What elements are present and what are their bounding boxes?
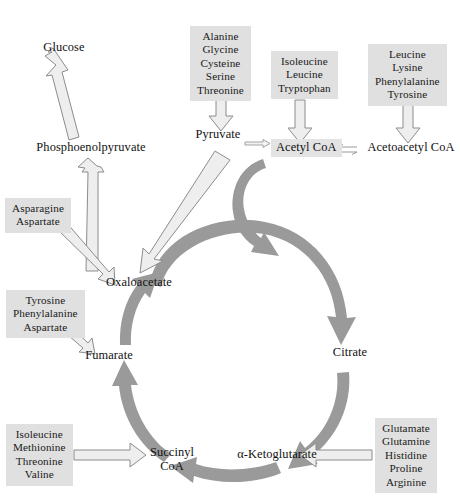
citric-acid-cycle-arcs	[112, 159, 356, 483]
aa-item: Cysteine	[197, 57, 244, 70]
cycle-arc-acetyl-coa-entry	[232, 159, 279, 256]
aa-item: Threonine	[13, 455, 66, 468]
node-acetyl-coa: Acetyl CoA	[271, 139, 342, 157]
node-succinyl-coa: Succinyl CoA	[146, 446, 198, 473]
aa-group-to-alpha-ketoglutarate: Glutamate Glutamine Histidine Proline Ar…	[375, 418, 437, 493]
node-fumarate: Fumarate	[78, 349, 140, 363]
aa-group-to-acetyl-coa: Isoleucine Leucine Tryptophan	[271, 51, 338, 99]
aa-item: Threonine	[197, 84, 244, 97]
pathway-diagram: Glucose Phosphoenolpyruvate Pyruvate Ace…	[0, 0, 460, 500]
block-arrow-oxaloacetate-to-pep	[78, 158, 104, 271]
aa-item: Arginine	[382, 476, 430, 489]
aa-item: Methionine	[13, 441, 66, 454]
block-arrow-pep-to-glucose	[45, 48, 79, 140]
thin-arrow-pyruvate-to-acetyl-coa	[245, 140, 270, 148]
aa-item: Tryptophan	[278, 82, 331, 95]
aa-group-to-succinyl-coa: Isoleucine Methionine Threonine Valine	[6, 424, 73, 486]
aa-item: Leucine	[375, 48, 440, 61]
aa-group-to-acetoacetyl-coa: Leucine Lysine Phenylalanine Tyrosine	[368, 44, 447, 106]
block-arrow-pyruvate-to-oxaloacetate	[140, 151, 230, 273]
node-oxaloacetate: Oxaloacetate	[93, 276, 185, 290]
aa-item: Glutamine	[382, 435, 430, 448]
aa-item: Glutamate	[382, 422, 430, 435]
node-glucose: Glucose	[32, 41, 96, 55]
block-arrow-aa-to-acetoacetyl-coa	[396, 100, 420, 143]
aa-item: Aspartate	[13, 321, 78, 334]
node-succinyl-coa-line1: Succinyl	[150, 445, 194, 459]
aa-group-to-fumarate: Tyrosine Phenylalanine Aspartate	[6, 290, 85, 338]
aa-item: Lysine	[375, 61, 440, 74]
aa-item: Valine	[13, 468, 66, 481]
aa-item: Glycine	[197, 43, 244, 56]
aa-group-to-pyruvate: Alanine Glycine Cysteine Serine Threonin…	[190, 26, 251, 101]
aa-item: Isoleucine	[13, 428, 66, 441]
aa-item: Aspartate	[12, 215, 64, 228]
block-arrow-aa-to-succinyl-coa	[74, 443, 146, 467]
node-alpha-ketoglutarate: α-Ketoglutarate	[229, 448, 325, 462]
node-succinyl-coa-line2: CoA	[160, 459, 184, 473]
aa-item: Leucine	[278, 68, 331, 81]
aa-item: Phenylalanine	[13, 307, 78, 320]
aa-item: Tyrosine	[13, 294, 78, 307]
aa-item: Asparagine	[12, 202, 64, 215]
aa-item: Histidine	[382, 449, 430, 462]
aa-item: Phenylalanine	[375, 75, 440, 88]
aa-item: Proline	[382, 462, 430, 475]
block-arrows	[45, 48, 420, 467]
aa-item: Tyrosine	[375, 88, 440, 101]
aa-group-to-oxaloacetate: Asparagine Aspartate	[5, 198, 71, 233]
node-acetoacetyl-coa: Acetoacetyl CoA	[362, 141, 460, 155]
node-pyruvate: Pyruvate	[190, 128, 246, 142]
node-citrate: Citrate	[324, 346, 376, 360]
aa-item: Alanine	[197, 30, 244, 43]
aa-item: Isoleucine	[278, 55, 331, 68]
aa-item: Serine	[197, 70, 244, 83]
block-arrow-aa-to-acetyl-coa	[288, 100, 312, 143]
node-phosphoenolpyruvate: Phosphoenolpyruvate	[26, 141, 156, 155]
